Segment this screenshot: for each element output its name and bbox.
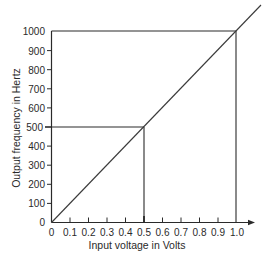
y-axis-title: Output frequency in Hertz	[10, 68, 22, 188]
svg-text:100: 100	[28, 198, 45, 209]
svg-text:700: 700	[28, 84, 45, 95]
svg-text:600: 600	[28, 103, 45, 114]
y-ticks	[45, 51, 52, 204]
svg-text:0: 0	[49, 227, 55, 238]
svg-text:900: 900	[28, 46, 45, 57]
axes	[52, 31, 256, 225]
svg-text:0.4: 0.4	[119, 227, 133, 238]
svg-text:1000: 1000	[23, 26, 46, 37]
voltage-frequency-chart: 0 100 200 300 400 500 600 700 800 900 10…	[0, 0, 267, 263]
svg-text:500: 500	[26, 122, 43, 133]
svg-text:800: 800	[28, 65, 45, 76]
x-axis-arrow-icon	[248, 220, 255, 225]
svg-text:0.8: 0.8	[193, 227, 207, 238]
svg-text:0.5: 0.5	[137, 227, 151, 238]
svg-text:0.7: 0.7	[174, 227, 188, 238]
x-tick-labels: 0 0.1 0.2 0.3 0.4 0.5 0.6 0.7 0.8 0.9 1.…	[49, 227, 245, 238]
transfer-line	[52, 5, 262, 223]
svg-text:300: 300	[28, 160, 45, 171]
svg-text:0.1: 0.1	[63, 227, 77, 238]
y-tick-labels: 0 100 200 300 400 500 600 700 800 900 10…	[23, 26, 46, 228]
svg-text:0.2: 0.2	[82, 227, 96, 238]
svg-text:1.0: 1.0	[230, 227, 244, 238]
svg-text:0.9: 0.9	[211, 227, 225, 238]
x-axis-title: Input voltage in Volts	[89, 239, 186, 251]
svg-text:0.6: 0.6	[156, 227, 170, 238]
svg-text:400: 400	[28, 141, 45, 152]
svg-text:200: 200	[28, 179, 45, 190]
svg-text:0: 0	[39, 217, 45, 228]
svg-text:0.3: 0.3	[100, 227, 114, 238]
